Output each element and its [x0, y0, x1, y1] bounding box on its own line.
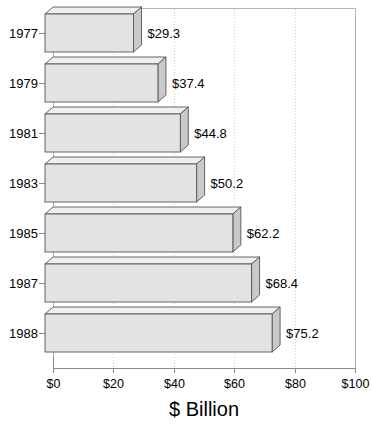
bar-front-face — [45, 64, 158, 102]
bar-top-face — [45, 107, 188, 114]
bar-top-face — [45, 207, 241, 214]
bar-front-face — [45, 114, 180, 152]
x-tick-label: $20 — [103, 377, 124, 391]
category-axis-group: 1977197919811983198519871988 — [9, 26, 46, 341]
x-tick-label: $0 — [47, 377, 61, 391]
bar-value-label: $29.3 — [147, 26, 180, 41]
chart-title: $ Billion — [169, 398, 239, 420]
bar-top-face — [45, 157, 205, 164]
bar-top-face — [45, 257, 260, 264]
bar-side-face — [252, 257, 260, 302]
bar-side-face — [180, 107, 188, 152]
bar-value-label: $62.2 — [247, 226, 280, 241]
category-label: 1977 — [9, 26, 38, 41]
bar-value-label: $44.8 — [194, 126, 227, 141]
category-label: 1988 — [9, 326, 38, 341]
bar-side-face — [158, 57, 166, 102]
bar-value-label: $75.2 — [286, 326, 319, 341]
x-tick-label: $40 — [164, 377, 185, 391]
bar-top-face — [45, 57, 166, 64]
bar-1977 — [45, 7, 141, 52]
bar-1985 — [45, 207, 241, 252]
bar-1983 — [45, 157, 205, 202]
value-axis-group: $0$20$40$60$80$100 — [47, 356, 370, 391]
bar-front-face — [45, 264, 252, 302]
x-tick-label: $80 — [285, 377, 306, 391]
bar-front-face — [45, 214, 233, 252]
category-label: 1979 — [9, 76, 38, 91]
category-label: 1981 — [9, 126, 38, 141]
bar-1981 — [45, 107, 188, 152]
bar-top-face — [45, 7, 141, 14]
bar-side-face — [133, 7, 141, 52]
bar-value-label: $50.2 — [211, 176, 244, 191]
bar-top-face — [45, 307, 280, 314]
bar-side-face — [272, 307, 280, 352]
x-tick-label: $100 — [342, 377, 370, 391]
bars-group — [45, 7, 280, 352]
x-tick-label: $60 — [224, 377, 245, 391]
category-label: 1987 — [9, 276, 38, 291]
bar-1979 — [45, 57, 166, 102]
bar-1987 — [45, 257, 260, 302]
bar-front-face — [45, 314, 272, 352]
category-label: 1983 — [9, 176, 38, 191]
bar-front-face — [45, 14, 133, 52]
chart-container: $29.3$37.4$44.8$50.2$62.2$68.4$75.219771… — [0, 0, 372, 427]
bar-value-label: $68.4 — [266, 276, 299, 291]
category-label: 1985 — [9, 226, 38, 241]
bar-front-face — [45, 164, 197, 202]
bar-chart: $29.3$37.4$44.8$50.2$62.2$68.4$75.219771… — [0, 0, 372, 427]
bar-side-face — [197, 157, 205, 202]
bar-value-label: $37.4 — [172, 76, 205, 91]
bar-1988 — [45, 307, 280, 352]
bar-side-face — [233, 207, 241, 252]
